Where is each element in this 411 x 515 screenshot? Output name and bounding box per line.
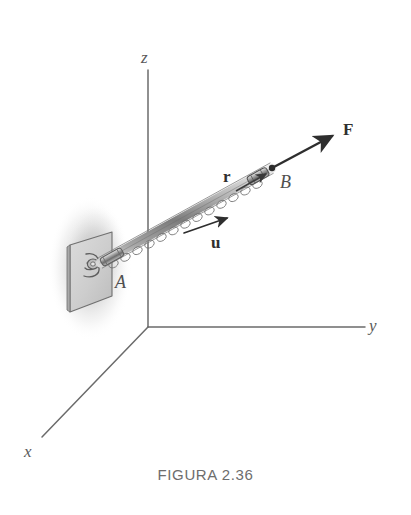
vector-label-f: F [343, 121, 353, 138]
vector-label-u: u [211, 234, 220, 251]
x-axis-line [42, 327, 148, 437]
vector-label-r: r [223, 168, 231, 185]
chain-cable [98, 163, 275, 270]
y-axis-label: y [369, 317, 377, 334]
point-label-b: B [280, 173, 291, 191]
figure-container: z y x A B F r u FIGURA 2.36 [0, 0, 411, 515]
wall-plate-edge [67, 245, 70, 312]
vector-f [272, 136, 332, 168]
point-label-a: A [115, 273, 126, 291]
z-axis-label: z [141, 49, 148, 66]
figure-drawing [0, 0, 411, 515]
figure-caption: FIGURA 2.36 [0, 466, 411, 483]
vector-u [184, 218, 227, 233]
x-axis-label: x [24, 443, 32, 460]
